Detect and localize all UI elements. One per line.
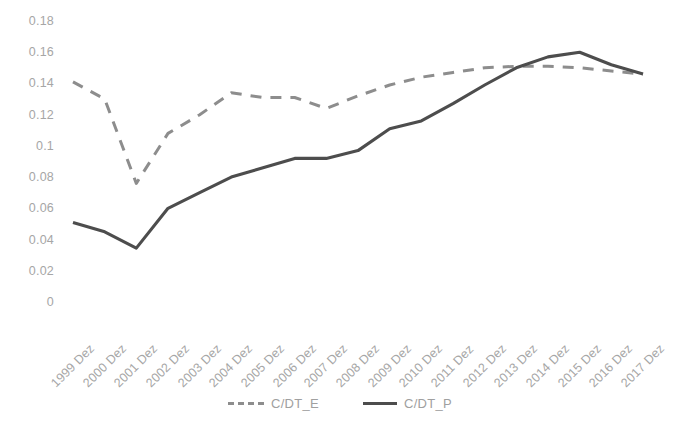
chart-legend: C/DT_EC/DT_P — [0, 396, 680, 411]
legend-item-c-dt-p[interactable]: C/DT_P — [363, 396, 452, 411]
legend-label: C/DT_P — [404, 396, 452, 411]
legend-label: C/DT_E — [271, 396, 319, 411]
series-layer — [73, 52, 643, 248]
legend-swatch-icon — [363, 402, 397, 405]
legend-item-c-dt-e[interactable]: C/DT_E — [228, 396, 319, 411]
line-chart: 0.180.160.140.120.10.080.060.040.020 199… — [0, 0, 680, 421]
series-line-c-dt-e — [73, 66, 643, 183]
legend-swatch-icon — [228, 402, 264, 405]
